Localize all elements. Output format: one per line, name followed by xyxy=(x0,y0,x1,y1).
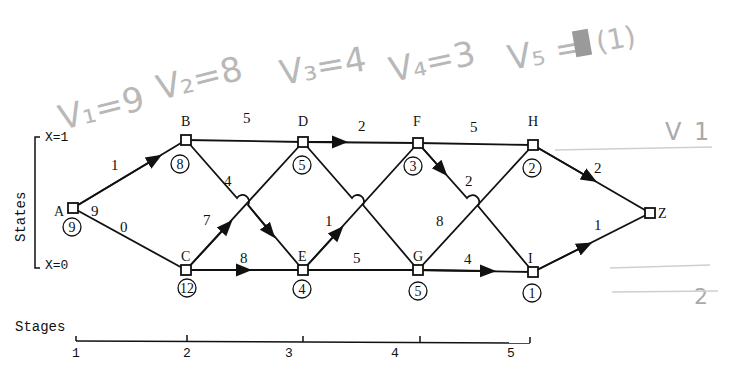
node-label-h: H xyxy=(528,114,538,129)
weight-a-c: 0 xyxy=(120,219,128,235)
node-g xyxy=(413,265,423,275)
annotation-right-top: V xyxy=(665,118,682,146)
weight-e-g: 5 xyxy=(353,250,361,266)
node-h xyxy=(528,140,538,150)
annotation-right-top-value: 1 xyxy=(694,118,709,146)
weight-g-h: 8 xyxy=(436,213,444,229)
weight-c-d: 7 xyxy=(203,212,211,228)
node-label-f: F xyxy=(413,114,421,129)
weight-b-d: 5 xyxy=(243,110,251,126)
states-bracket xyxy=(35,137,40,268)
node-f xyxy=(413,138,423,148)
node-labels: A B C D E F G H I Z xyxy=(54,114,667,266)
stage-tick-3: 3 xyxy=(285,346,293,361)
stages-axis xyxy=(76,335,530,343)
stage-tick-5: 5 xyxy=(507,346,515,361)
weight-b-e: 4 xyxy=(224,173,232,189)
stage-tick-2: 2 xyxy=(183,346,191,361)
weight-f-i: 2 xyxy=(465,173,473,189)
weight-d-f: 2 xyxy=(358,118,366,134)
node-value-i: 1 xyxy=(529,286,536,301)
annotation-v3: V₃=4 xyxy=(276,38,369,93)
weight-c-e: 8 xyxy=(240,250,248,266)
node-value-c: 12 xyxy=(180,281,194,296)
node-value-g: 5 xyxy=(415,284,422,299)
node-label-d: D xyxy=(298,114,308,129)
node-d xyxy=(298,137,308,147)
states-axis-label: States xyxy=(13,192,29,242)
edge-weights: 1 0 9 5 4 7 8 2 1 5 5 2 8 4 2 1 xyxy=(91,110,602,267)
weight-h-z: 2 xyxy=(594,160,602,176)
weight-i-z: 1 xyxy=(594,217,602,233)
node-a xyxy=(68,203,78,213)
stage-tick-1: 1 xyxy=(72,346,80,361)
node-c xyxy=(181,265,191,275)
network-diagram: V₁=9 V₂=8 V₃=4 V₄=3 V₅ = (1) V 1 2 xyxy=(0,0,744,380)
node-label-z: Z xyxy=(658,206,667,221)
node-label-c: C xyxy=(181,249,190,264)
annotation-v1: V₁=9 xyxy=(54,78,148,138)
node-label-e: E xyxy=(298,249,307,264)
node-value-a: 9 xyxy=(69,220,76,235)
stage-tick-4: 4 xyxy=(391,346,399,361)
node-z xyxy=(645,208,655,218)
annotation-v4: V₄=3 xyxy=(385,33,478,90)
handwritten-annotations: V₁=9 V₂=8 V₃=4 V₄=3 V₅ = (1) V 1 2 xyxy=(54,20,709,309)
node-e xyxy=(298,265,308,275)
weight-a: 9 xyxy=(91,203,99,219)
node-value-e: 4 xyxy=(299,282,306,297)
states-labels: X=1 X=0 States xyxy=(13,130,69,273)
state-x0-label: X=0 xyxy=(45,258,68,273)
weight-e-f: 1 xyxy=(325,213,333,229)
stages-labels: Stages 1 2 3 4 5 xyxy=(15,319,515,361)
edges xyxy=(73,140,650,272)
node-i xyxy=(528,267,538,277)
stages-axis-label: Stages xyxy=(15,319,65,335)
node-value-h: 2 xyxy=(529,161,536,176)
node-label-i: I xyxy=(528,251,533,266)
annotation-v5-value: (1) xyxy=(593,20,638,59)
state-x1-label: X=1 xyxy=(45,130,69,145)
weight-g-i: 4 xyxy=(464,251,472,267)
node-value-b: 8 xyxy=(177,157,184,172)
node-value-f: 3 xyxy=(410,159,417,174)
node-b xyxy=(181,135,191,145)
annotation-v2: V₂=8 xyxy=(152,48,246,108)
weight-f-h: 5 xyxy=(470,119,478,135)
node-label-a: A xyxy=(54,204,65,219)
weight-a-b: 1 xyxy=(111,157,119,173)
node-label-g: G xyxy=(413,249,423,264)
node-label-b: B xyxy=(181,114,190,129)
annotation-right-bottom: 2 xyxy=(694,284,708,309)
node-value-d: 5 xyxy=(299,158,306,173)
